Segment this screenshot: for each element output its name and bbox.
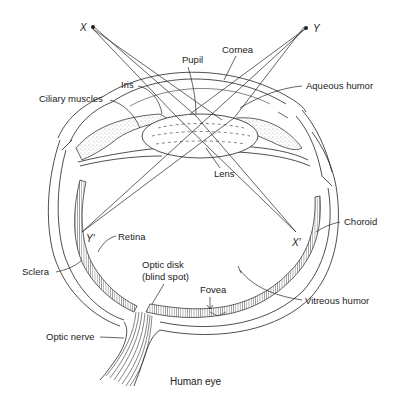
label-retina: Retina bbox=[118, 231, 146, 242]
optic-nerve bbox=[100, 312, 160, 386]
point-y-label: Y bbox=[313, 23, 321, 34]
point-x-prime-label: X′ bbox=[291, 237, 302, 248]
point-y-marker: Y bbox=[304, 23, 321, 34]
label-sclera: Sclera bbox=[22, 266, 50, 277]
label-choroid: Choroid bbox=[344, 216, 377, 227]
label-optic-disk: Optic disk bbox=[142, 259, 184, 270]
eye-diagram: X Y Y′ X′ Pupil Cornea Iris Ciliary musc… bbox=[0, 0, 398, 404]
point-x-label: X bbox=[79, 22, 87, 33]
label-lens: Lens bbox=[214, 168, 235, 179]
label-optic-nerve: Optic nerve bbox=[46, 331, 95, 342]
label-iris: Iris bbox=[121, 79, 134, 90]
label-aqueous-humor: Aqueous humor bbox=[306, 80, 373, 91]
label-optic-disk-blind-spot: (blind spot) bbox=[142, 271, 189, 282]
retina bbox=[75, 180, 321, 318]
label-cornea: Cornea bbox=[222, 44, 254, 55]
diagram-caption: Human eye bbox=[170, 376, 222, 387]
point-y-prime-label: Y′ bbox=[86, 233, 96, 244]
label-fovea: Fovea bbox=[200, 284, 227, 295]
label-ciliary-muscles: Ciliary muscles bbox=[39, 93, 103, 104]
label-vitreous-humor: Vitreous humor bbox=[305, 295, 369, 306]
label-pupil: Pupil bbox=[182, 54, 203, 65]
cornea bbox=[104, 72, 306, 112]
point-x-marker: X bbox=[79, 22, 95, 33]
